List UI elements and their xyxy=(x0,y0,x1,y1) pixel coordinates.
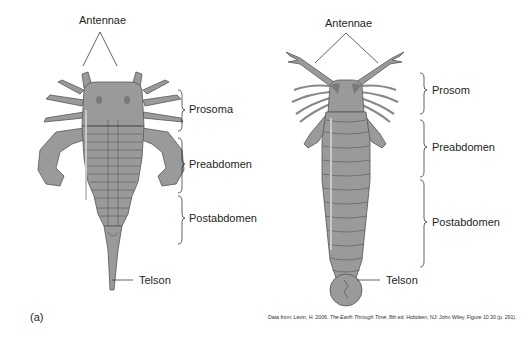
right-specimen-left-antenna xyxy=(286,52,334,86)
right-prosoma-bracket xyxy=(420,73,427,114)
figure-caption: Data from: Levin, H. 2006. The Earth Thr… xyxy=(268,314,516,320)
left-telson xyxy=(104,226,122,290)
eurypterid-diagram xyxy=(0,0,523,338)
left-prosoma-label: Prosoma xyxy=(189,103,233,115)
right-eurypterid xyxy=(286,52,404,306)
right-abdomen xyxy=(322,112,370,278)
left-antennae-pointer xyxy=(83,32,117,66)
left-abdomen xyxy=(82,126,144,226)
caption-title: The Earth Through Time xyxy=(330,314,386,320)
left-eye xyxy=(96,96,102,104)
right-specimen-right-antenna xyxy=(356,52,404,86)
left-telson-label: Telson xyxy=(139,274,171,286)
left-eurypterid xyxy=(38,72,184,290)
caption-suffix: , 8th ed. Hoboken, NJ: John Wiley. Figur… xyxy=(386,314,516,320)
right-eye xyxy=(124,96,130,104)
right-telson xyxy=(330,274,362,306)
left-preabdomen-label: Preabdomen xyxy=(189,158,252,170)
right-antennae-label: Antennae xyxy=(325,17,372,29)
left-paddle xyxy=(38,128,84,186)
panel-label: (a) xyxy=(30,311,43,323)
right-postabdomen-bracket xyxy=(420,180,427,267)
left-postabdomen-label: Postabdomen xyxy=(189,212,257,224)
right-telson-label: Telson xyxy=(386,274,418,286)
left-prosoma xyxy=(82,82,144,126)
right-preabdomen-bracket xyxy=(420,120,427,177)
caption-prefix: Data from: Levin, H. 2006. xyxy=(268,314,330,320)
left-prosoma-bracket xyxy=(178,90,185,131)
left-antennae-label: Antennae xyxy=(79,14,126,26)
right-prosoma-label: Prosom xyxy=(432,84,470,96)
right-postabdomen-label: Postabdomen xyxy=(432,216,500,228)
right-antennae-pointer xyxy=(315,33,378,63)
right-paddle xyxy=(142,128,184,186)
right-preabdomen-label: Preabdomen xyxy=(432,141,495,153)
left-postabdomen-bracket xyxy=(178,196,185,244)
